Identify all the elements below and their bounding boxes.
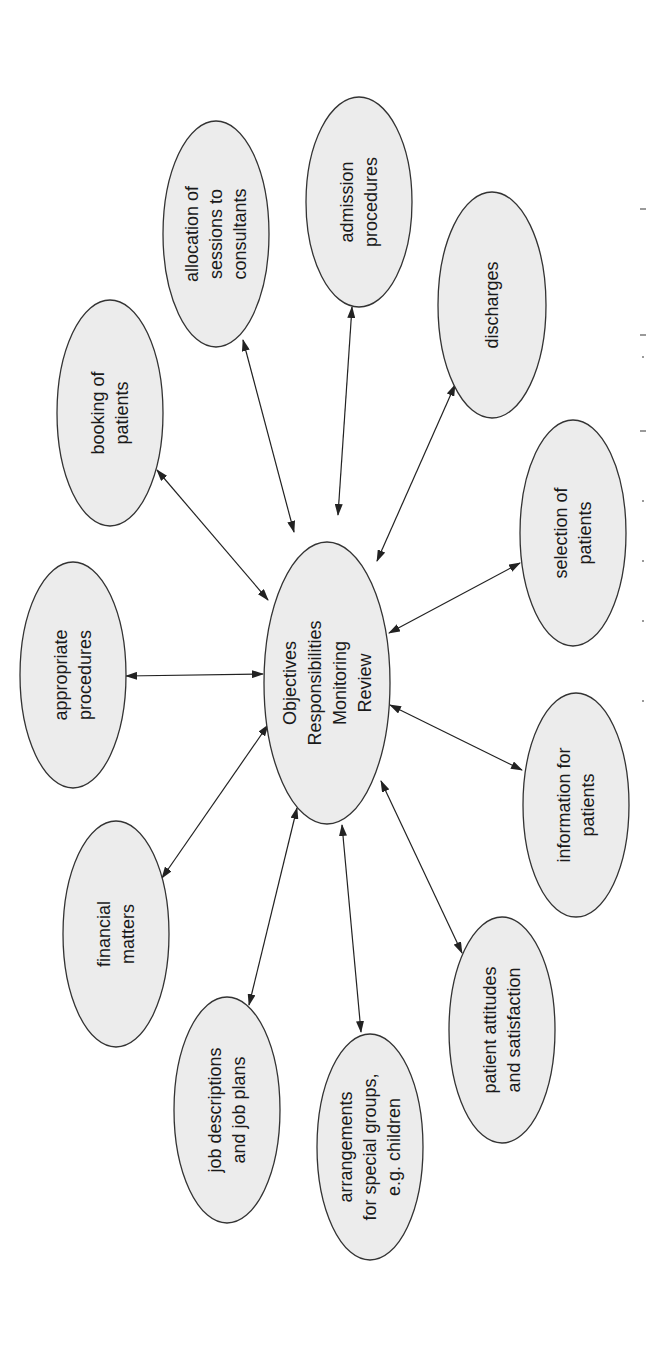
node-label-line: consultants <box>230 188 250 279</box>
node-ellipse <box>306 97 412 307</box>
double-arrow-icon <box>342 825 361 1032</box>
node-label-line: patients <box>575 501 595 564</box>
double-arrow-icon <box>162 725 268 878</box>
node-allocation-of-sessions: allocation ofsessions toconsultants <box>163 121 269 347</box>
edge-arrangements-special-groups <box>342 825 361 1032</box>
node-ellipse <box>174 997 280 1223</box>
node-appropriate-procedures: appropriateprocedures <box>20 562 126 788</box>
node-financial-matters: financialmatters <box>63 821 169 1047</box>
node-label-line: patient attitudes <box>480 966 500 1093</box>
node-arrangements-special-groups: arrangementsfor special groups,e.g. chil… <box>317 1034 423 1260</box>
node-job-descriptions: job descriptionsand job plans <box>174 997 280 1223</box>
node-label-line: sessions to <box>206 189 226 279</box>
edge-patient-attitudes <box>381 781 462 953</box>
edge-appropriate-procedures <box>126 674 263 676</box>
node-ellipse <box>20 562 126 788</box>
double-arrow-icon <box>389 563 520 633</box>
node-label-line: arrangements <box>336 1091 356 1202</box>
node-label-line: Review <box>355 652 375 712</box>
edge-discharges <box>377 385 455 561</box>
node-label-line: allocation of <box>182 185 202 282</box>
node-center-objectives: ObjectivesResponsibilitiesMonitoringRevi… <box>264 542 390 824</box>
node-ellipse <box>63 821 169 1047</box>
node-selection-of-patients: selection ofpatients <box>520 420 626 646</box>
edge-financial-matters <box>162 725 268 878</box>
node-label-line: Objectives <box>280 641 300 725</box>
edge-job-descriptions <box>249 808 297 1005</box>
node-label-line: information for <box>554 747 574 862</box>
node-label-line: Monitoring <box>330 641 350 725</box>
node-label-line: appropriate <box>51 629 71 720</box>
double-arrow-icon <box>381 781 462 953</box>
double-arrow-icon <box>157 470 268 600</box>
node-label: discharges <box>482 261 502 348</box>
hub-and-spoke-diagram: appropriateproceduresbooking ofpatientsa… <box>0 0 646 1371</box>
node-label-line: and job plans <box>229 1056 249 1163</box>
double-arrow-icon <box>390 705 522 770</box>
node-ellipse <box>520 420 626 646</box>
double-arrow-icon <box>249 808 297 1005</box>
topic-nodes: appropriateproceduresbooking ofpatientsa… <box>20 97 629 1260</box>
node-ellipse <box>523 693 629 917</box>
node-booking-of-patients: booking ofpatients <box>57 300 163 526</box>
node-label-line: patients <box>578 773 598 836</box>
node-admission-procedures: admissionprocedures <box>306 97 412 307</box>
edge-information-for-patients <box>390 705 522 770</box>
node-label-line: job descriptions <box>205 1047 225 1173</box>
node-label-line: e.g. children <box>384 1098 404 1196</box>
node-label-line: procedures <box>75 630 95 720</box>
edge-selection-of-patients <box>389 563 520 633</box>
cropped-caption-fragments <box>640 208 646 702</box>
double-arrow-icon <box>243 340 294 532</box>
node-label-line: selection of <box>551 486 571 578</box>
node-label-line: for special groups, <box>360 1073 380 1220</box>
double-arrow-icon <box>377 385 455 561</box>
double-arrow-icon <box>338 307 352 515</box>
node-label-line: matters <box>118 904 138 964</box>
node-label-line: and satisfaction <box>504 967 524 1092</box>
node-discharges: discharges <box>438 192 546 418</box>
node-label: allocation ofsessions toconsultants <box>182 185 250 282</box>
node-patient-attitudes: patient attitudesand satisfaction <box>449 917 555 1143</box>
node-label-line: Responsibilities <box>305 620 325 745</box>
node-label-line: patients <box>112 381 132 444</box>
double-arrow-icon <box>126 674 263 676</box>
node-label-line: financial <box>94 901 114 967</box>
node-label-line: discharges <box>482 261 502 348</box>
node-label-line: admission <box>337 161 357 242</box>
node-label-line: booking of <box>88 370 108 454</box>
node-ellipse <box>449 917 555 1143</box>
node-ellipse <box>57 300 163 526</box>
edge-booking-of-patients <box>157 470 268 600</box>
edge-admission-procedures <box>338 307 352 515</box>
node-label-line: procedures <box>361 157 381 247</box>
edge-allocation-of-sessions <box>243 340 294 532</box>
node-information-for-patients: information forpatients <box>523 693 629 917</box>
